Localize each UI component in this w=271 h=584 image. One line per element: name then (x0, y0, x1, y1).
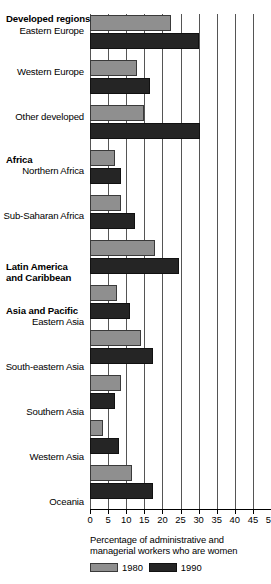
bar-southern-asia-1980 (90, 375, 121, 391)
category-label-western-asia: Western Asia (29, 451, 84, 462)
bar-eastern-asia-1980 (90, 285, 117, 301)
bar-eastern-asia-1990 (90, 303, 130, 319)
tick-label-30: 30 (193, 514, 203, 525)
bar-spacer (0, 50, 271, 59)
bar-latin-america-and-caribbean-1990 (90, 258, 179, 274)
group-label-latin-america-line2: and Caribbean (6, 273, 71, 284)
bar-row-other-developed-1990 (0, 122, 271, 140)
bar-western-europe-1990 (90, 78, 150, 94)
category-label-northern-africa: Northern Africa (22, 165, 84, 176)
tick-label-20: 20 (157, 514, 167, 525)
axis-caption-line1: Percentage of administrative and (90, 535, 268, 546)
group-label-africa: Africa (6, 155, 33, 166)
x-axis-ticks: 05101520253035404550 (0, 510, 271, 524)
tick-label-40: 40 (230, 514, 240, 525)
chart-container: Developed regions Eastern Europe Western… (0, 0, 271, 584)
group-label-asia-pacific: Asia and Pacific (6, 306, 78, 317)
category-label-southern-asia: Southern Asia (26, 406, 84, 417)
category-label-oceania: Oceania (49, 496, 84, 507)
bar-western-asia-1980 (90, 420, 103, 436)
bar-southern-asia-1990 (90, 393, 115, 409)
bar-western-europe-1980 (90, 60, 137, 76)
bar-south-eastern-asia-1980 (90, 330, 141, 346)
bar-sub-saharan-africa-1990 (90, 213, 135, 229)
axis-caption: Percentage of administrative and manager… (90, 535, 268, 556)
bars-layer (0, 14, 271, 500)
bar-western-asia-1990 (90, 438, 119, 454)
bar-sub-saharan-africa-1980 (90, 195, 121, 211)
bar-row-eastern-asia-1980 (0, 284, 271, 302)
category-label-sub-saharan-africa: Sub-Saharan Africa (4, 210, 85, 221)
group-label-latin-america-line1: Latin America (6, 262, 68, 273)
bar-eastern-europe-1980 (90, 15, 171, 31)
bar-row-south-eastern-asia-1980 (0, 329, 271, 347)
tick-label-50: 50 (266, 514, 271, 525)
bar-oceania-1980 (90, 465, 132, 481)
bar-northern-africa-1990 (90, 168, 121, 184)
legend: 1980 1990 (90, 562, 202, 573)
category-label-south-eastern-asia: South-eastern Asia (6, 361, 84, 372)
legend-swatch-1990-icon (149, 563, 177, 572)
tick-label-10: 10 (121, 514, 131, 525)
category-label-western-europe: Western Europe (17, 66, 84, 77)
legend-item-1990: 1990 (149, 562, 202, 573)
legend-label-1990: 1990 (181, 562, 202, 573)
group-spacer (0, 230, 271, 239)
tick-label-15: 15 (139, 514, 149, 525)
tick-label-45: 45 (248, 514, 258, 525)
tick-label-35: 35 (211, 514, 221, 525)
bar-row-western-europe-1990 (0, 77, 271, 95)
tick-label-0: 0 (87, 514, 92, 525)
category-label-eastern-europe: Eastern Europe (19, 25, 84, 36)
category-label-other-developed: Other developed (15, 111, 84, 122)
bar-row-western-asia-1980 (0, 419, 271, 437)
bar-northern-africa-1980 (90, 150, 115, 166)
bar-south-eastern-asia-1990 (90, 348, 153, 364)
bar-row-latin-america-and-caribbean-1980 (0, 239, 271, 257)
bar-spacer (0, 95, 271, 104)
legend-item-1980: 1980 (90, 562, 143, 573)
legend-label-1980: 1980 (122, 562, 143, 573)
tick-label-5: 5 (105, 514, 110, 525)
bar-row-southern-asia-1980 (0, 374, 271, 392)
bar-row-oceania-1980 (0, 464, 271, 482)
category-label-eastern-asia: Eastern Asia (32, 316, 84, 327)
group-label-developed: Developed regions (6, 14, 90, 25)
bar-oceania-1990 (90, 483, 153, 499)
axis-caption-line2: managerial workers who are women (90, 546, 268, 557)
bar-other-developed-1980 (90, 105, 144, 121)
bar-row-oceania-1990 (0, 482, 271, 500)
bar-spacer (0, 185, 271, 194)
legend-swatch-1980-icon (90, 563, 118, 572)
bar-latin-america-and-caribbean-1980 (90, 240, 155, 256)
tick-label-25: 25 (175, 514, 185, 525)
bar-other-developed-1990 (90, 123, 200, 139)
group-spacer (0, 140, 271, 149)
bar-eastern-europe-1990 (90, 33, 199, 49)
